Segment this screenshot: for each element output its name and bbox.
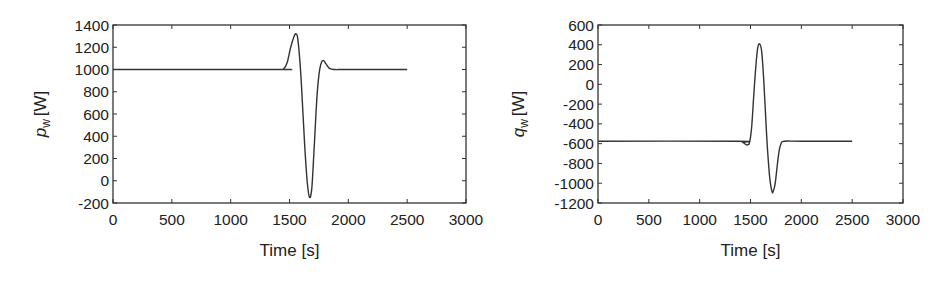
chart-qw: -1200-1000-800-600-400-2000200400600 050… xyxy=(509,17,921,261)
x-tick-label: 3000 xyxy=(886,211,921,228)
y-tick-label: 0 xyxy=(585,76,594,93)
y-tick-label: 800 xyxy=(83,83,109,100)
y-tick-label: 0 xyxy=(100,172,109,189)
x-tick-label: 3000 xyxy=(449,211,484,228)
y-tick-label: -200 xyxy=(78,195,109,212)
x-axis-label: Time [s] xyxy=(721,241,781,260)
x-tick-label: 1000 xyxy=(213,211,248,228)
y-tick-label: 400 xyxy=(83,128,109,145)
x-tick-label: 2000 xyxy=(331,211,366,228)
x-tick-label: 1500 xyxy=(272,211,307,228)
x-tick-label: 1500 xyxy=(733,211,768,228)
y-axis-ticks: -1200-1000-800-600-400-2000200400600 xyxy=(554,17,903,212)
y-tick-label: 200 xyxy=(83,150,109,167)
chart-pw: -2000200400600800100012001400 0500100015… xyxy=(31,17,484,261)
y-tick-label: -200 xyxy=(563,96,594,113)
plot-frame xyxy=(598,25,903,203)
x-tick-label: 500 xyxy=(159,211,185,228)
x-tick-label: 1000 xyxy=(682,211,717,228)
x-tick-label: 2000 xyxy=(784,211,819,228)
y-axis-label: pw[W] xyxy=(31,91,53,139)
y-tick-label: 200 xyxy=(568,56,594,73)
y-tick-label: 600 xyxy=(83,106,109,123)
x-tick-label: 0 xyxy=(109,211,118,228)
y-tick-label: -400 xyxy=(563,115,594,132)
y-tick-label: -1200 xyxy=(554,195,594,212)
y-tick-label: 1400 xyxy=(75,17,110,34)
x-tick-label: 2500 xyxy=(390,211,425,228)
y-tick-label: 600 xyxy=(568,17,594,34)
x-tick-label: 2500 xyxy=(835,211,870,228)
y-tick-label: -800 xyxy=(563,155,594,172)
series-line-pw xyxy=(113,34,407,198)
y-axis-label: qw[W] xyxy=(509,91,531,138)
x-axis-label: Time [s] xyxy=(260,241,320,260)
x-tick-label: 0 xyxy=(594,211,603,228)
y-tick-label: -1000 xyxy=(554,175,594,192)
x-axis-ticks: 050010001500200025003000 xyxy=(109,25,484,228)
figure: -2000200400600800100012001400 0500100015… xyxy=(0,0,952,283)
y-tick-label: 1200 xyxy=(75,39,110,56)
y-axis-ticks: -2000200400600800100012001400 xyxy=(75,17,466,212)
series-line-qw xyxy=(598,44,852,193)
axes-frame xyxy=(598,25,903,203)
x-tick-label: 500 xyxy=(636,211,662,228)
y-tick-label: 400 xyxy=(568,36,594,53)
y-tick-label: 1000 xyxy=(75,61,110,78)
y-tick-label: -600 xyxy=(563,135,594,152)
